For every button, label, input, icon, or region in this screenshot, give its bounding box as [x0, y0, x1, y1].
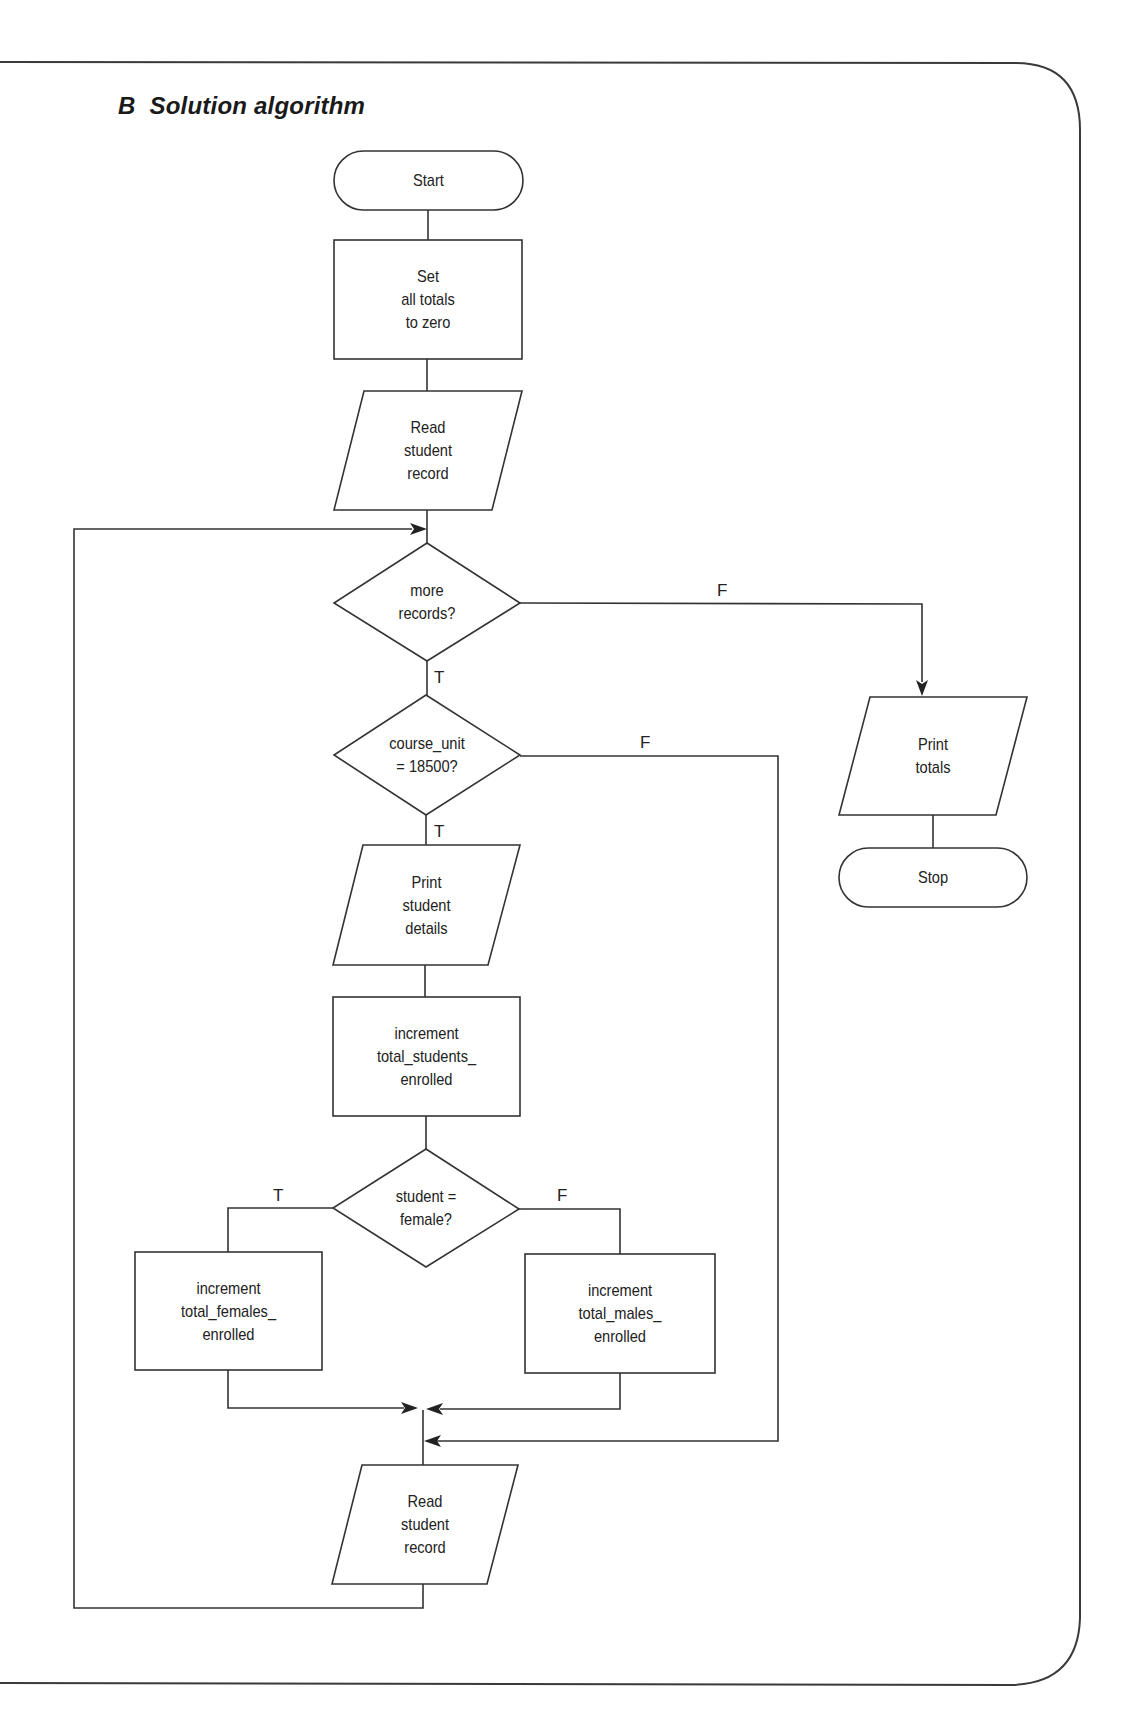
branch-label-female-false: F	[557, 1187, 567, 1205]
male-merge-line	[440, 1373, 620, 1409]
more-records-false-line	[520, 603, 922, 682]
branch-label-course-true: T	[434, 823, 444, 841]
inc-females-box: increment total_females_ enrolled	[148, 1252, 309, 1370]
branch-label-female-true: T	[273, 1187, 283, 1205]
course-unit-decision: course_unit = 18500?	[347, 695, 507, 815]
page: BSolution algorithm	[0, 0, 1122, 1730]
inc-students-box: increment total_students_ enrolled	[346, 997, 507, 1116]
inc-males-box: increment total_males_ enrolled	[538, 1254, 701, 1373]
stop-terminator: Stop	[852, 848, 1014, 907]
set-totals-box: Set all totals to zero	[347, 240, 509, 359]
female-merge-line	[228, 1370, 404, 1408]
female-false-line	[519, 1209, 620, 1254]
start-terminator: Start	[347, 151, 510, 210]
read-record-2-box: Read student record	[345, 1465, 505, 1584]
branch-label-more-true: T	[434, 669, 444, 687]
read-record-1-box: Read student record	[347, 391, 509, 510]
print-details-box: Print student details	[346, 845, 507, 965]
branch-label-more-false: F	[717, 582, 727, 600]
loop-arrow-icon	[410, 523, 427, 535]
female-decision: student = female?	[346, 1149, 506, 1267]
more-records-decision: more records?	[347, 543, 507, 661]
arrow-down-icon	[916, 680, 928, 696]
print-totals-box: Print totals	[852, 697, 1014, 815]
branch-label-course-false: F	[640, 734, 650, 752]
female-true-line	[228, 1208, 333, 1252]
